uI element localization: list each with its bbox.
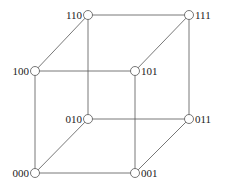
node-111: 111 <box>185 9 211 21</box>
node-label: 100 <box>13 65 30 77</box>
node-010: 010 <box>66 113 93 125</box>
node-circle <box>31 169 40 178</box>
edges-group <box>35 15 189 173</box>
node-001: 001 <box>131 167 158 179</box>
node-circle <box>185 11 194 20</box>
node-label: 000 <box>13 167 30 179</box>
node-circle <box>84 115 93 124</box>
nodes-group: 000001010011100101110111 <box>13 9 212 179</box>
node-label: 101 <box>141 65 158 77</box>
node-circle <box>84 11 93 20</box>
node-label: 110 <box>66 9 83 21</box>
node-011: 011 <box>185 113 212 125</box>
node-circle <box>31 67 40 76</box>
edge-101-111 <box>135 15 189 71</box>
edge-000-010 <box>35 119 88 173</box>
node-circle <box>131 169 140 178</box>
edge-001-011 <box>135 119 189 173</box>
node-circle <box>185 115 194 124</box>
node-label: 011 <box>195 113 211 125</box>
edge-100-110 <box>35 15 88 71</box>
node-label: 010 <box>66 113 83 125</box>
node-100: 100 <box>13 65 40 77</box>
hypercube-diagram: 000001010011100101110111 <box>0 0 226 188</box>
node-101: 101 <box>131 65 158 77</box>
node-label: 001 <box>141 167 158 179</box>
node-label: 111 <box>195 9 211 21</box>
node-circle <box>131 67 140 76</box>
node-110: 110 <box>66 9 93 21</box>
node-000: 000 <box>13 167 40 179</box>
